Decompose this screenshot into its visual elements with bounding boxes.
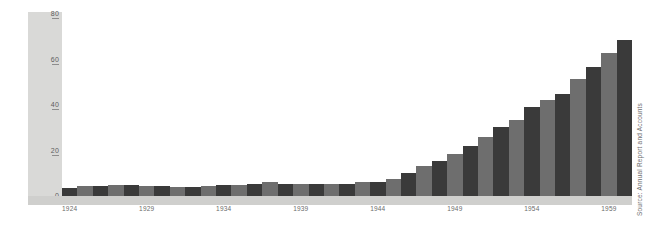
plot-area [62,14,632,196]
chart-figure: 020406080 1924–1960£ MILLION 19241929193… [0,0,665,240]
x-axis-tick-label: 1924 [62,205,77,213]
bar [416,166,431,196]
y-axis-tick: 40 [31,101,59,110]
bar [370,182,385,196]
y-axis-tick-mark [52,155,59,156]
bar [524,107,539,196]
x-axis-labels: 19241929193419391944194919541959 [62,205,632,219]
y-axis-tick-label: 20 [31,147,59,154]
bar [555,94,570,196]
y-axis-tick-mark [52,18,59,19]
bar [601,53,616,196]
bar [154,186,169,196]
y-axis-tick-mark [52,109,59,110]
x-axis-tick-label: 1954 [524,205,539,213]
bar [463,146,478,196]
x-axis-tick-label: 1939 [293,205,308,213]
bar-series [62,14,632,196]
bar [216,185,231,196]
bar [139,186,154,196]
bar [278,184,293,197]
bar [93,186,108,196]
bar [185,187,200,196]
x-axis-tick-label: 1949 [447,205,462,213]
bar [77,186,92,196]
y-axis-ticks: 020406080 [28,12,62,205]
bar [62,188,77,196]
y-axis-tick: 60 [31,56,59,65]
bar [386,179,401,196]
x-axis-strip [28,196,632,205]
bar [493,127,508,196]
y-axis-tick: 20 [31,147,59,156]
bar [401,173,416,196]
bar [617,40,632,196]
bar [447,154,462,196]
bar [262,182,277,196]
bar [540,100,555,196]
y-axis-tick-mark [52,64,59,65]
bar [293,184,308,197]
x-axis-tick-label: 1959 [601,205,616,213]
y-axis-tick-label: 60 [31,56,59,63]
bar [247,184,262,197]
x-axis-tick-label: 1934 [216,205,231,213]
x-axis-tick-label: 1944 [370,205,385,213]
bar [509,120,524,196]
bar [231,185,246,196]
bar [478,137,493,196]
bar [355,182,370,196]
bar [432,161,447,196]
bar [324,184,339,197]
y-axis-tick-label: 40 [31,101,59,108]
y-axis-tick: 80 [31,10,59,19]
source-note: Source: Annual Report and Accounts [636,112,644,216]
bar [108,185,123,196]
bar [570,79,585,196]
y-axis-tick-label: 80 [31,10,59,17]
bar [309,184,324,197]
x-axis-tick-label: 1929 [139,205,154,213]
bar [124,185,139,196]
bar [201,186,216,196]
bar [586,67,601,196]
bar [339,184,354,197]
bar [170,187,185,196]
